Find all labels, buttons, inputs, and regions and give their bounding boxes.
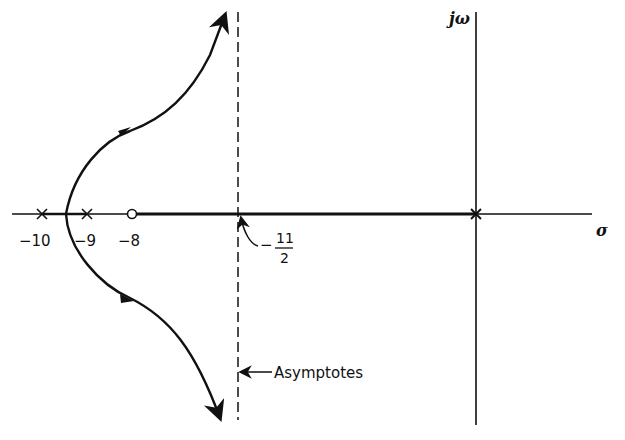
real-axis-label: σ	[596, 221, 608, 240]
centroid-pointer	[241, 218, 258, 246]
centroid-sign: −	[260, 236, 273, 254]
pole-label-minus-9: −9	[74, 232, 96, 250]
centroid-denominator: 2	[280, 250, 289, 266]
asymptotes-label: Asymptotes	[274, 364, 363, 382]
imaginary-axis-label: jω	[446, 9, 470, 28]
root-locus-diagram: jω σ −10 −9 −8 − 11 2 Asymptotes	[0, 0, 625, 440]
locus-branch-upper	[66, 15, 225, 214]
zero-marker-minus-8	[128, 210, 137, 219]
centroid-numerator: 11	[276, 230, 294, 246]
zero-label-minus-8: −8	[118, 232, 140, 250]
pole-label-minus-10: −10	[19, 232, 51, 250]
